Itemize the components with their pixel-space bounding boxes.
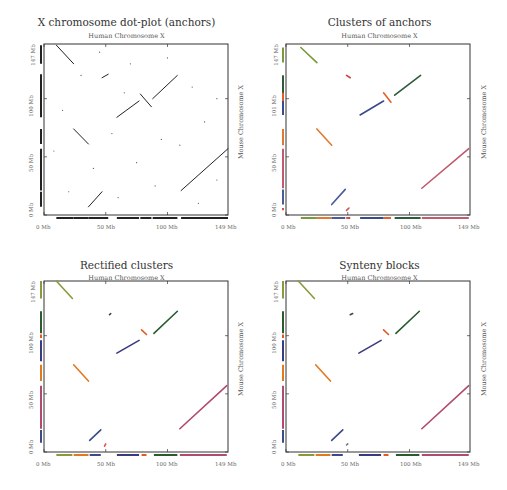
chart-title: X chromosome dot-plot (anchors)	[0, 16, 253, 28]
y-tick-100: 100 Mb	[271, 332, 277, 353]
y-tick-50: 50 Mb	[271, 154, 277, 172]
y-tick-50: 50 Mb	[28, 154, 34, 172]
y-tick-101: 101 Mb	[271, 95, 277, 116]
y-tick-50: 50 Mb	[28, 391, 34, 409]
y-tick-0: 0 Mb	[271, 440, 277, 454]
y-axis-label: Mouse Chromosome X	[237, 85, 245, 159]
y-tick-0: 0 Mb	[28, 203, 34, 217]
plot-area	[44, 281, 228, 452]
panel-synteny-blocks: Synteny blocks Human Chromosome X 147 Mb…	[253, 245, 506, 490]
y-axis-label: Mouse Chromosome X	[237, 322, 245, 396]
plot-area	[286, 44, 470, 215]
x-tick-149: 149 Mb	[458, 461, 479, 467]
x-tick-149: 149 Mb	[215, 224, 236, 230]
x-tick-100: 100 Mb	[400, 461, 421, 467]
x-tick-0: 0 Mb	[281, 461, 295, 467]
y-tick-0: 0 Mb	[28, 440, 34, 454]
plot-area	[44, 44, 228, 215]
panel-rectified-clusters: Rectified clusters Human Chromosome X 14…	[0, 245, 253, 490]
x-axis-label: Human Chromosome X	[0, 32, 253, 40]
panel-dot-plot-anchors: X chromosome dot-plot (anchors) Human Ch…	[0, 0, 253, 245]
y-tick-50: 50 Mb	[271, 391, 277, 409]
y-tick-100: 100 Mb	[28, 95, 34, 116]
x-tick-0: 0 Mb	[36, 224, 50, 230]
y-tick-147: 147 Mb	[273, 44, 279, 65]
x-tick-149: 149 Mb	[215, 461, 236, 467]
x-tick-50: 50 Mb	[97, 461, 115, 467]
y-axis-label: Mouse Chromosome X	[480, 85, 488, 159]
x-tick-50: 50 Mb	[97, 224, 115, 230]
y-axis-label: Mouse Chromosome X	[480, 322, 488, 396]
x-tick-50: 50 Mb	[341, 461, 359, 467]
x-tick-149: 149 Mb	[458, 224, 479, 230]
plot-area	[286, 281, 470, 452]
x-tick-0: 0 Mb	[281, 224, 295, 230]
y-tick-100: 100 Mb	[28, 332, 34, 353]
x-axis-label: Human Chromosome X	[253, 32, 506, 40]
x-tick-0: 0 Mb	[36, 461, 50, 467]
chart-title: Rectified clusters	[0, 259, 253, 271]
chart-title: Clusters of anchors	[253, 16, 506, 28]
y-tick-147: 147 Mb	[273, 281, 279, 302]
x-tick-100: 100 Mb	[156, 224, 177, 230]
x-tick-50: 50 Mb	[341, 224, 359, 230]
chart-title: Synteny blocks	[253, 259, 506, 271]
y-tick-147: 147 Mb	[30, 44, 36, 65]
y-tick-0: 0 Mb	[271, 203, 277, 217]
x-tick-100: 100 Mb	[400, 224, 421, 230]
panel-clusters-of-anchors: Clusters of anchors Human Chromosome X 1…	[253, 0, 506, 245]
x-tick-100: 100 Mb	[156, 461, 177, 467]
y-tick-147: 147 Mb	[30, 281, 36, 302]
